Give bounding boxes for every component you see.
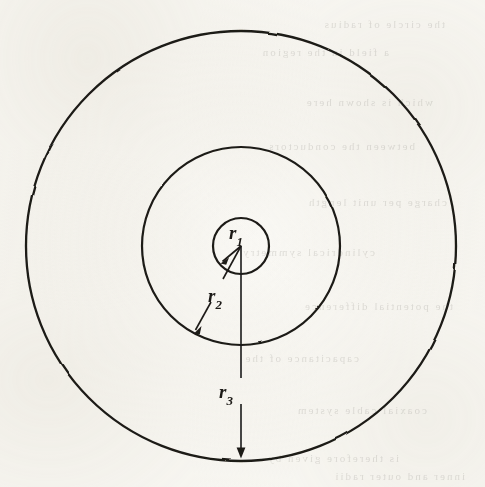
radius-label-r3-subscript: 3 bbox=[226, 393, 233, 408]
figure-canvas: the circle of radius a field in the regi… bbox=[0, 0, 485, 487]
radius-label-r2: r2 bbox=[208, 285, 222, 310]
radius-label-r1: r1 bbox=[229, 222, 243, 247]
radius-label-r3: r3 bbox=[219, 381, 233, 406]
radius-label-r1-subscript: 1 bbox=[236, 234, 243, 249]
radius-label-r2-subscript: 2 bbox=[215, 297, 222, 312]
radius-leader-r3 bbox=[237, 246, 246, 459]
arrowhead-r3 bbox=[237, 448, 246, 459]
